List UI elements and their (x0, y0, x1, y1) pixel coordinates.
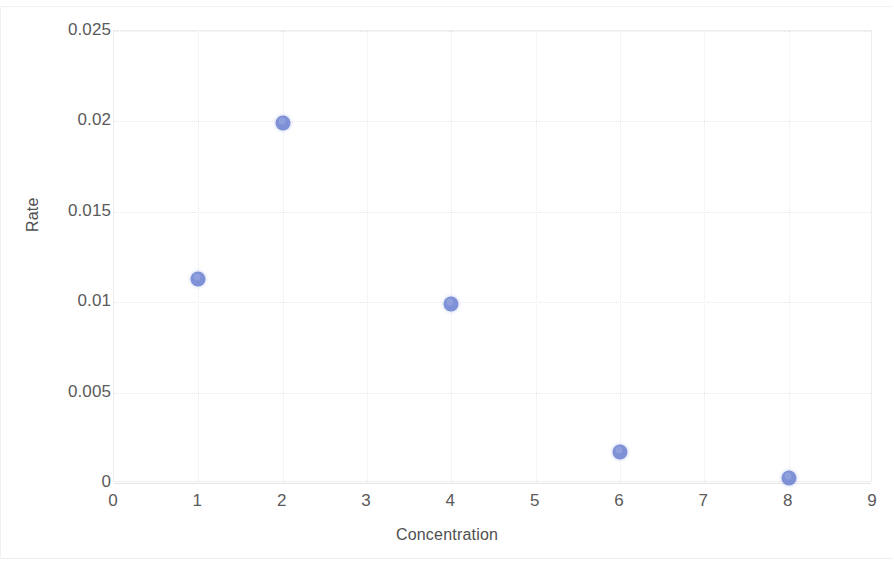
gridline-vertical (536, 31, 537, 481)
x-axis-tick-label: 3 (361, 492, 370, 509)
scatter-chart: 00.0050.010.0150.020.025 0123456789 Rate… (0, 0, 894, 571)
x-axis-title: Concentration (0, 526, 894, 544)
y-axis-tick-label: 0 (101, 473, 111, 490)
gridline-vertical (367, 31, 368, 481)
plot-area (113, 30, 872, 482)
y-axis-tick-label: 0.01 (78, 292, 112, 309)
gridline-horizontal (114, 483, 871, 484)
gridline-horizontal (114, 302, 871, 303)
gridline-vertical (620, 31, 621, 481)
x-axis-tick-label: 4 (446, 492, 455, 509)
x-axis-tick-label: 5 (530, 492, 539, 509)
gridline-horizontal (114, 31, 871, 32)
y-axis-tick-label: 0.02 (78, 111, 112, 128)
x-axis-tick-label: 2 (277, 492, 286, 509)
x-axis-tick-label: 7 (699, 492, 708, 509)
gridline-vertical (789, 31, 790, 481)
gridline-vertical (198, 31, 199, 481)
y-axis-tick-label: 0.025 (68, 21, 111, 38)
gridline-horizontal (114, 393, 871, 394)
x-axis-tick-label: 8 (783, 492, 792, 509)
data-point-marker (613, 445, 628, 460)
x-axis-tick-label: 9 (867, 492, 876, 509)
gridline-vertical (283, 31, 284, 481)
y-axis-tick-label: 0.005 (68, 383, 111, 400)
x-axis-tick-label: 1 (193, 492, 202, 509)
data-point-marker (781, 470, 796, 485)
gridline-horizontal (114, 121, 871, 122)
y-axis-title: Rate (24, 197, 42, 232)
x-axis-tick-label: 6 (614, 492, 623, 509)
gridline-vertical (451, 31, 452, 481)
data-point-marker (191, 271, 206, 286)
gridline-horizontal (114, 212, 871, 213)
y-axis-tick-label: 0.015 (68, 202, 111, 219)
gridline-vertical (704, 31, 705, 481)
x-axis-tick-label: 0 (108, 492, 117, 509)
data-point-marker (275, 116, 290, 131)
data-point-marker (444, 297, 459, 312)
